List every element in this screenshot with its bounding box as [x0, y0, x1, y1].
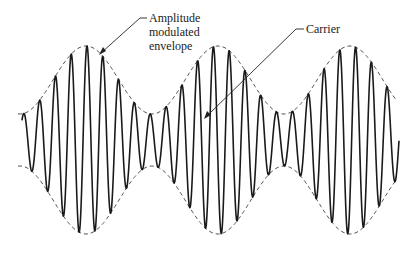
- carrier-label: Carrier: [306, 22, 340, 36]
- envelope-label-line-1: Amplitude: [149, 11, 200, 25]
- carrier-waveform: [22, 46, 399, 234]
- carrier-annotation: Carrier: [204, 22, 340, 119]
- envelope-annotation: Amplitude modulated envelope: [99, 11, 200, 55]
- envelope-label-line-3: envelope: [149, 39, 192, 53]
- envelope-arrowhead-icon: [99, 47, 106, 55]
- envelope-leader-line: [101, 18, 140, 53]
- envelope-label-line-2: modulated: [149, 25, 200, 39]
- carrier-leader-line: [207, 29, 296, 116]
- am-waveform-diagram: Amplitude modulated envelope Carrier: [0, 0, 417, 257]
